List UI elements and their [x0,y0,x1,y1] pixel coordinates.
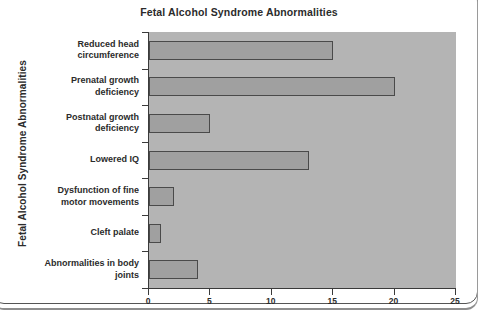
x-axis-tick [332,289,333,295]
y-axis-tick-label: Prenatal growth deficiency [36,69,144,106]
plot-area [148,32,456,289]
bar-chart: Fetal Alcohol Syndrome Abnormalities Fet… [0,0,478,319]
x-axis-tick [209,289,210,295]
y-axis-category-labels: Reduced head circumference Prenatal grow… [36,32,144,288]
bar [149,187,174,206]
x-axis-tick [148,289,149,295]
bar [149,151,309,170]
bar [149,224,161,243]
bar-slot [149,251,456,288]
y-axis-tick-label: Abnormalities in body joints [36,251,144,288]
bar-slot [149,32,456,69]
x-axis-tick-labels: 0510152025 [148,296,455,310]
bar-slot [149,105,456,142]
y-axis-tick-label: Dysfunction of fine motor movements [36,178,144,215]
bar [149,77,395,96]
y-axis-tick-label: Reduced head circumference [36,32,144,69]
x-axis-tick-label: 15 [327,296,336,306]
x-axis-tick-label: 10 [266,296,275,306]
y-axis-title: Fetal Alcohol Syndrome Abnormalities [17,54,28,254]
bar [149,41,333,60]
x-axis-tick-label: 0 [146,296,151,306]
bar [149,260,198,279]
x-axis-ticks [148,289,455,296]
bar [149,114,210,133]
x-axis-tick-label: 5 [207,296,212,306]
x-axis-tick-label: 20 [389,296,398,306]
x-axis-tick [394,289,395,295]
x-axis-tick-label: 25 [450,296,459,306]
x-axis-tick [455,289,456,295]
bar-slot [149,215,456,252]
x-axis-tick [271,289,272,295]
chart-title: Fetal Alcohol Syndrome Abnormalities [0,6,478,18]
bar-slot [149,69,456,106]
y-axis-tick-label: Lowered IQ [36,142,144,179]
y-axis-tick-label: Cleft palate [36,215,144,252]
bar-slot [149,178,456,215]
y-axis-tick-label: Postnatal growth deficiency [36,105,144,142]
bars-layer [149,32,456,288]
bar-slot [149,142,456,179]
